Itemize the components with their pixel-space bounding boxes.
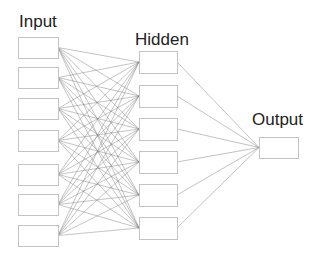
hidden-node-6 xyxy=(140,218,178,240)
hidden-layer-label: Hidden xyxy=(135,31,189,48)
connection-line xyxy=(58,141,139,163)
hidden-node-4 xyxy=(140,152,178,174)
output-layer-label: Output xyxy=(252,111,303,128)
input-node-2 xyxy=(19,68,59,89)
connection-line xyxy=(58,78,139,229)
input-node-7 xyxy=(19,226,59,247)
connection-line xyxy=(58,96,139,175)
connection-line xyxy=(58,195,139,205)
input-node-1 xyxy=(19,38,59,59)
output-node-1 xyxy=(260,138,299,159)
input-layer-label: Input xyxy=(19,13,57,30)
connection-line xyxy=(58,78,139,97)
neural-network-diagram: Input Hidden Output xyxy=(0,0,319,263)
input-node-3 xyxy=(19,99,59,120)
input-node-4 xyxy=(19,131,59,152)
connection-line xyxy=(177,62,259,148)
connections xyxy=(58,48,259,236)
connection-line xyxy=(177,96,259,148)
hidden-node-3 xyxy=(140,119,178,141)
connection-line xyxy=(58,109,139,130)
connection-line xyxy=(58,96,139,205)
connection-line xyxy=(58,62,139,175)
input-node-5 xyxy=(19,165,59,186)
connection-line xyxy=(58,129,139,205)
hidden-node-2 xyxy=(140,86,178,108)
connection-line xyxy=(177,129,259,148)
hidden-node-1 xyxy=(140,52,178,74)
hidden-node-5 xyxy=(140,185,178,207)
input-node-6 xyxy=(19,195,59,216)
connection-line xyxy=(58,96,139,109)
connection-line xyxy=(58,129,139,141)
